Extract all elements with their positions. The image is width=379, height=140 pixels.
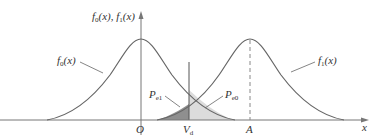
f0-label: f0(x) — [57, 54, 76, 68]
origin-label: O — [136, 123, 144, 135]
pe1-region — [157, 104, 189, 120]
pe1-leader — [165, 96, 180, 107]
f1-leader — [291, 62, 315, 72]
y-axis-label: f0(x), f1(x) — [92, 10, 135, 24]
y-axis-arrow-icon — [139, 11, 144, 19]
x-axis-label: x — [361, 121, 367, 133]
f1-label: f1(x) — [318, 54, 337, 68]
detection-diagram: f0(x), f1(x) f0(x) f1(x) Pe1 Pe0 O Vd A … — [0, 0, 379, 140]
a-label: A — [245, 123, 253, 135]
pe0-leader — [205, 96, 223, 108]
vd-label: Vd — [183, 123, 194, 137]
pe1-label: Pe1 — [148, 88, 163, 102]
pe0-label: Pe0 — [224, 88, 239, 102]
f0-leader — [80, 62, 103, 73]
